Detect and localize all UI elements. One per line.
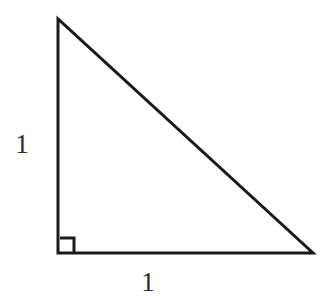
triangle-figure: 1 1 [0,0,331,304]
horizontal-leg-length-label: 1 [134,269,162,296]
right-angle-square-icon [60,238,74,252]
triangle-drawing [0,0,331,304]
vertical-leg-length-label: 1 [8,131,36,158]
triangle-outline [58,19,313,253]
